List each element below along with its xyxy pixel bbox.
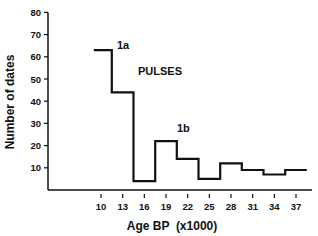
x-tick-label: 31 xyxy=(247,201,258,212)
y-tick-label: 70 xyxy=(30,29,41,40)
annotation-pulses: PULSES xyxy=(138,65,182,77)
y-tick-label: 80 xyxy=(30,7,41,18)
x-tick-label: 28 xyxy=(226,201,237,212)
y-axis-ticks: 1020304050607080 xyxy=(30,7,48,173)
y-axis-label: Number of dates xyxy=(3,54,17,149)
x-tick-label: 25 xyxy=(204,201,215,212)
y-tick-label: 40 xyxy=(30,96,41,107)
y-tick-label: 60 xyxy=(30,51,41,62)
x-tick-label: 34 xyxy=(269,201,280,212)
annotation-1b: 1b xyxy=(177,122,190,134)
y-tick-label: 20 xyxy=(30,140,41,151)
x-tick-label: 22 xyxy=(182,201,193,212)
y-tick-label: 10 xyxy=(30,162,41,173)
y-tick-label: 30 xyxy=(30,118,41,129)
x-tick-label: 13 xyxy=(117,201,128,212)
y-tick-label: 50 xyxy=(30,74,41,85)
annotation-1a: 1a xyxy=(117,39,130,51)
step-chart: 1020304050607080 10131619222528313437 Nu… xyxy=(0,0,318,236)
data-series-step-line xyxy=(94,50,307,181)
x-tick-label: 16 xyxy=(139,201,150,212)
x-axis-ticks: 10131619222528313437 xyxy=(96,194,302,212)
x-tick-label: 19 xyxy=(161,201,172,212)
x-tick-label: 37 xyxy=(291,201,302,212)
x-axis-label: Age BP (x1000) xyxy=(127,219,218,233)
x-tick-label: 10 xyxy=(96,201,107,212)
axes xyxy=(48,12,312,190)
